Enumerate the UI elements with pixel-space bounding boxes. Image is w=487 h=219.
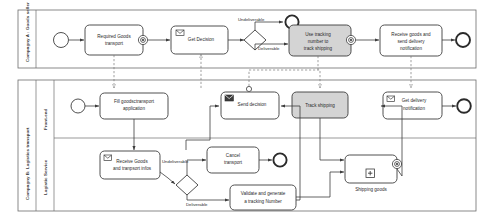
lane-front-end-label: Front-end [43, 108, 48, 130]
task-get-notif-line1: Get delivery [402, 98, 427, 103]
task-send-decision-label: Send decision [238, 102, 267, 107]
task-get-delivery-notification[interactable]: Get delivery notification [383, 92, 442, 119]
task-cancel-line1: Cancel [226, 153, 240, 158]
task-use-tracking-number[interactable]: Use tracking number to track shipping [289, 25, 356, 56]
task-receive-goods-send-notification[interactable]: Receive goods and send delivery notifica… [380, 25, 442, 56]
start-event-frontend[interactable] [71, 99, 85, 113]
end-event-cancel[interactable] [273, 153, 286, 166]
task-validate-generate-tracking[interactable]: Validate and generate a tracking Number [230, 185, 296, 210]
task-get-decision[interactable]: Get Decision [171, 26, 228, 54]
envelope-icon [176, 30, 184, 36]
task-cancel-line2: transport [224, 160, 243, 165]
envelope-dark-icon [225, 95, 233, 101]
task-validate-line1: Validate and generate [241, 191, 286, 196]
task-tracking-line3: track shipping [304, 46, 333, 51]
task-tracking-line1: Use tracking [305, 32, 331, 37]
task-get-decision-label: Get Decision [188, 37, 215, 42]
task-receive-line3: notification [400, 46, 422, 51]
task-receive-line2: send delivery [397, 39, 425, 44]
tracking-message-marker-dot-icon [350, 39, 352, 41]
task-fill-application[interactable]: Fill goodsctransport application [100, 93, 168, 119]
task-validate-rect [230, 185, 296, 210]
task-receive-infos-line1: Receive Goods [116, 159, 148, 164]
end-event-frontend[interactable] [457, 99, 471, 113]
bpmn-svg-root: Compagny A : Goods seller Required Goods… [0, 0, 487, 219]
task-cancel-transport[interactable]: Cancel transport [207, 147, 259, 173]
flow-label-b-undeliverable: Undeliverable [162, 159, 189, 164]
subprocess-shipping-label: Shipping goods [355, 187, 387, 192]
task-fill-line1: Fill goodsctransport [114, 99, 155, 104]
lane-logistic-service-label: Logistic Service [43, 159, 48, 195]
pool-a-label: Compagny A : Goods seller [25, 2, 30, 62]
task-required-goods-transport[interactable]: Required Goods transport [85, 25, 148, 55]
flow-label-a-undeliverable: Undeliverable [238, 17, 265, 22]
task-fill-line2: application [123, 106, 145, 111]
task-tracking-line2: number to [308, 39, 329, 44]
task-receive-infos-line2: and tranpsort infos [113, 166, 152, 171]
end-event-seller[interactable] [456, 33, 470, 47]
bpmn-diagram-canvas: Compagny A : Goods seller Required Goods… [0, 0, 487, 219]
collapsed-subprocess-plus-icon [366, 169, 374, 177]
task-receive-goods-infos[interactable]: Receive Goods and tranpsort infos [100, 151, 160, 179]
start-event-seller[interactable] [54, 33, 69, 48]
task-get-notif-line2: notification [403, 106, 425, 111]
message-send-marker-dot-icon [142, 39, 144, 41]
envelope-receive-icon [104, 155, 112, 160]
task-validate-line2: a tracking Number [244, 199, 282, 204]
task-track-shipping-label: Track shipping [305, 103, 335, 108]
flow-label-b-deliverable: Deliverable [186, 202, 208, 207]
task-required-line2: transport [105, 41, 124, 46]
pool-b-label: Compagny B: Logistics transport [25, 127, 30, 200]
envelope-notif-icon [387, 96, 395, 101]
send-decision-message-marker-icon [246, 86, 251, 91]
flow-label-a-deliverable: Deliverable [258, 46, 280, 51]
task-receive-line1: Receive goods and [391, 32, 431, 37]
shipping-message-marker-dot-icon [396, 163, 398, 165]
task-required-rect [85, 25, 143, 55]
task-required-line1: Required Goods [97, 34, 131, 39]
